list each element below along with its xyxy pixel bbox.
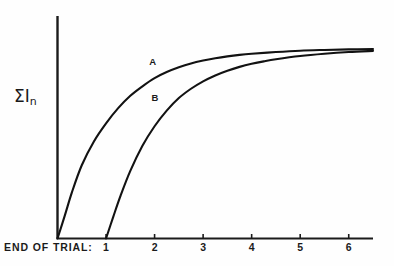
x-axis-tick-label: 1: [103, 241, 109, 253]
x-axis-tick-label: 4: [249, 241, 255, 253]
curve-b: [106, 51, 373, 239]
chart-plot-area: [0, 0, 394, 266]
y-axis-label: ΣIn: [14, 86, 37, 108]
curve-a: [58, 49, 374, 239]
x-axis-tick-label: 2: [152, 241, 158, 253]
data-curves-group: [58, 49, 374, 239]
chart-figure: ΣIn END OF TRIAL: 123456 A B: [0, 0, 394, 266]
curve-label-a: A: [149, 56, 156, 67]
x-axis-tick-label: 3: [200, 241, 206, 253]
x-axis-caption: END OF TRIAL:: [4, 241, 93, 253]
y-axis-label-subscript: n: [30, 95, 37, 108]
x-axis-tick-label: 5: [297, 241, 303, 253]
curve-label-b: B: [152, 92, 159, 103]
y-axis-label-base: ΣI: [14, 86, 30, 106]
x-axis-tick-label: 6: [346, 241, 352, 253]
